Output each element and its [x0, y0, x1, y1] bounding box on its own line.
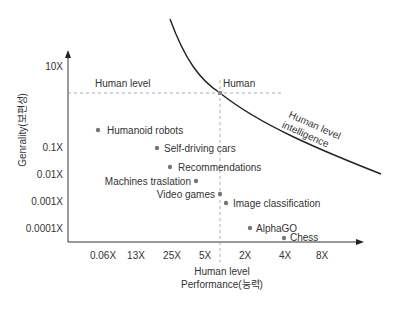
- x-tick: 2X: [239, 250, 252, 261]
- point-alphago: [248, 226, 252, 230]
- y-tick: 0.001X: [31, 196, 63, 207]
- chart: 10X 0.1X 0.01X 0.001X 0.0001X 0.06X 13X …: [0, 0, 396, 309]
- x-tick: 0.06X: [90, 250, 116, 261]
- point-machines-translation: [194, 179, 198, 183]
- y-tick: 10X: [45, 61, 63, 72]
- point-label: Humanoid robots: [107, 125, 183, 136]
- point-image-classification: [224, 201, 228, 205]
- x-tick: 4X: [279, 250, 292, 261]
- x-tick: 25X: [163, 250, 181, 261]
- human-level-label: Human level: [95, 78, 151, 89]
- point-label: Self-driving cars: [164, 143, 236, 154]
- y-tick: 0.01X: [37, 169, 63, 180]
- point-label: Recommendations: [178, 162, 261, 173]
- point-humanoid-robots: [96, 128, 100, 132]
- point-label: Chess: [290, 232, 318, 243]
- y-axis-title: Genrality(보편성): [17, 93, 28, 167]
- point-recommendations: [168, 165, 172, 169]
- point-video-games: [218, 192, 222, 196]
- intersection-marker: [218, 91, 222, 95]
- x-tick: 5X: [199, 250, 212, 261]
- human-label: Human: [223, 78, 255, 89]
- x-tick: 13X: [127, 250, 145, 261]
- point-chess: [282, 236, 286, 240]
- x-tick: 8X: [316, 250, 329, 261]
- x-axis-title-line2: Performance(능력): [181, 279, 263, 290]
- point-label: Video games: [157, 189, 215, 200]
- point-label: Machines traslation: [105, 176, 191, 187]
- point-self-driving-cars: [155, 146, 159, 150]
- y-tick: 0.0001X: [26, 223, 64, 234]
- point-label: Image classification: [233, 198, 320, 209]
- x-axis-title-line1: Human level: [194, 266, 250, 277]
- y-tick: 0.1X: [42, 142, 63, 153]
